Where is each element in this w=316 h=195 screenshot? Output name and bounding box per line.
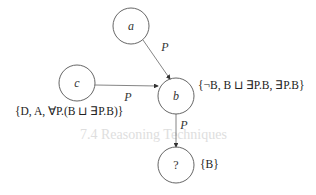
edge-b-q-label: P: [180, 118, 187, 133]
set-label-c: {D, A, ∀P.(B ⊔ ∃P.B)}: [15, 104, 123, 118]
diagram-canvas: [0, 0, 316, 195]
edge-a-b-label: P: [161, 40, 168, 55]
node-q-label: ?: [173, 158, 178, 173]
edge-c-b-label: P: [124, 90, 131, 105]
set-label-q: {B}: [200, 158, 219, 170]
node-c-label: c: [74, 76, 79, 91]
set-label-b: {¬B, B ⊔ ∃P.B, ∃P.B}: [198, 78, 304, 92]
node-a-label: a: [128, 19, 134, 34]
edge-c-b: [95, 85, 158, 86]
node-b-label: b: [173, 89, 179, 104]
